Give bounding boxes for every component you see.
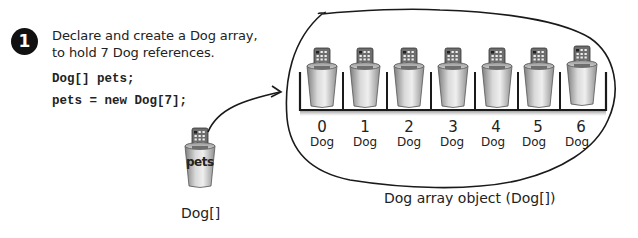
- slot-type-5: Dog: [516, 135, 552, 149]
- reference-type-label: Dog[]: [181, 205, 220, 221]
- reference-arrow: [208, 92, 280, 132]
- array-object-label: Dog array object (Dog[]): [384, 190, 556, 206]
- slot-type-2: Dog: [391, 135, 427, 149]
- reference-cup-label: pets: [186, 155, 214, 169]
- slot-type-4: Dog: [475, 135, 511, 149]
- slot-type-1: Dog: [347, 135, 383, 149]
- slot-type-3: Dog: [434, 135, 470, 149]
- slot-type-0: Dog: [304, 135, 340, 149]
- slot-index-1: 1: [350, 118, 380, 136]
- slot-index-3: 3: [438, 118, 468, 136]
- slot-index-5: 5: [523, 118, 553, 136]
- slot-index-6: 6: [566, 118, 596, 136]
- slot-index-2: 2: [394, 118, 424, 136]
- slot-index-0: 0: [307, 118, 337, 136]
- slot-type-6: Dog: [559, 135, 595, 149]
- slot-index-4: 4: [481, 118, 511, 136]
